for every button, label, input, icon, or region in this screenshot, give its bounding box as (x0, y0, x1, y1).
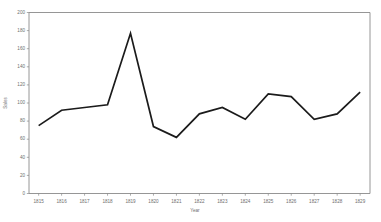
x-tick-label: 1816 (56, 199, 67, 204)
x-tick-label: 1821 (171, 199, 182, 204)
x-tick-label: 1822 (194, 199, 205, 204)
x-tick-label: 1825 (263, 199, 274, 204)
x-tick-label: 1827 (309, 199, 320, 204)
line-chart: 020406080100120140160180200 Sales 181518… (0, 0, 381, 222)
x-tick-label: 1817 (79, 199, 90, 204)
x-tick-label: 1815 (34, 199, 45, 204)
x-tick-label: 1824 (240, 199, 251, 204)
x-tick-label: 1819 (125, 199, 136, 204)
x-tick-label: 1828 (332, 199, 343, 204)
x-tick-label: 1818 (102, 199, 113, 204)
x-axis-group: 1815181618171818181918201821182218231824… (29, 13, 370, 214)
y-tick-label: 40 (20, 155, 26, 160)
x-tick-group: 1815181618171818181918201821182218231824… (34, 194, 366, 204)
y-tick-label: 100 (17, 100, 25, 105)
y-tick-label: 160 (17, 46, 25, 51)
y-tick-label: 140 (17, 64, 25, 69)
x-tick-label: 1823 (217, 199, 228, 204)
y-axis-title: Sales (3, 97, 8, 109)
x-axis-title: Year (190, 208, 200, 213)
y-tick-label: 60 (20, 136, 26, 141)
y-tick-label: 180 (17, 28, 25, 33)
x-tick-label: 1820 (148, 199, 159, 204)
y-tick-group: 020406080100120140160180200 (17, 10, 29, 196)
y-tick-label: 120 (17, 82, 25, 87)
x-tick-label: 1826 (286, 199, 297, 204)
y-tick-label: 20 (20, 173, 26, 178)
data-series-line (39, 33, 360, 137)
y-tick-label: 0 (22, 191, 25, 196)
chart-plot-area: 020406080100120140160180200 Sales 181518… (0, 0, 381, 222)
x-tick-label: 1829 (355, 199, 366, 204)
y-axis-group: 020406080100120140160180200 Sales (3, 10, 29, 196)
y-tick-label: 200 (17, 10, 25, 15)
y-tick-label: 80 (20, 118, 26, 123)
